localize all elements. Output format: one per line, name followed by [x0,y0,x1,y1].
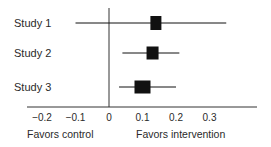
point-estimate-square [135,81,151,94]
x-tick-label: −0.1 [66,112,86,123]
x-tick-label: 0.1 [136,112,150,123]
study-label: Study 1 [14,17,51,29]
favors-control-label: Favors control [27,128,94,140]
point-estimate-square [150,16,161,30]
study-labels: Study 1Study 2Study 3 [14,17,51,93]
study-row [76,16,227,30]
x-tick-label: 0.3 [203,112,217,123]
forest-plot: Study 1Study 2Study 3 −0.2−0.100.10.20.3… [0,0,271,147]
study-label: Study 2 [14,47,51,59]
x-tick-label: 0.2 [169,112,183,123]
favors-intervention-label: Favors intervention [136,128,225,140]
x-tick-label: −0.2 [32,112,52,123]
study-label: Study 3 [14,81,51,93]
study-rows [76,16,227,94]
study-row [119,81,176,94]
x-axis-tick-labels: −0.2−0.100.10.20.3 [32,112,217,123]
point-estimate-square [147,47,159,60]
x-tick-label: 0 [106,112,112,123]
study-row [122,47,179,60]
